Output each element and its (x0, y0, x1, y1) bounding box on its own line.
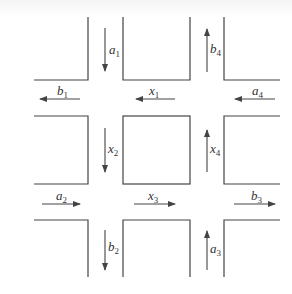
block-middle-left (34, 116, 88, 184)
block-bottom-middle (123, 220, 190, 277)
block-middle-right (224, 116, 280, 184)
street-blocks (34, 17, 280, 277)
block-top-left (34, 17, 88, 80)
label-x3: x3 (147, 188, 159, 205)
flow-labels: a1 b1 x1 a4 b4 x2 x4 a2 x3 b3 b2 a3 (56, 41, 264, 258)
label-a1: a1 (109, 42, 120, 59)
block-bottom-left (34, 220, 88, 277)
label-b1: b1 (57, 83, 68, 100)
label-b2: b2 (108, 239, 119, 256)
block-bottom-right (224, 220, 280, 277)
label-x4: x4 (209, 141, 221, 158)
label-a2: a2 (56, 188, 67, 205)
block-top-right (224, 17, 280, 80)
traffic-diagram: a1 b1 x1 a4 b4 x2 x4 a2 x3 b3 b2 a3 (0, 0, 292, 294)
label-a3: a3 (210, 241, 222, 258)
label-b3: b3 (251, 188, 263, 205)
flow-arrows (40, 28, 275, 270)
label-a4: a4 (252, 83, 264, 100)
label-x1: x1 (148, 83, 159, 100)
label-x2: x2 (107, 141, 118, 158)
block-center (123, 116, 190, 184)
label-b4: b4 (210, 41, 222, 58)
block-top-middle (123, 17, 190, 80)
